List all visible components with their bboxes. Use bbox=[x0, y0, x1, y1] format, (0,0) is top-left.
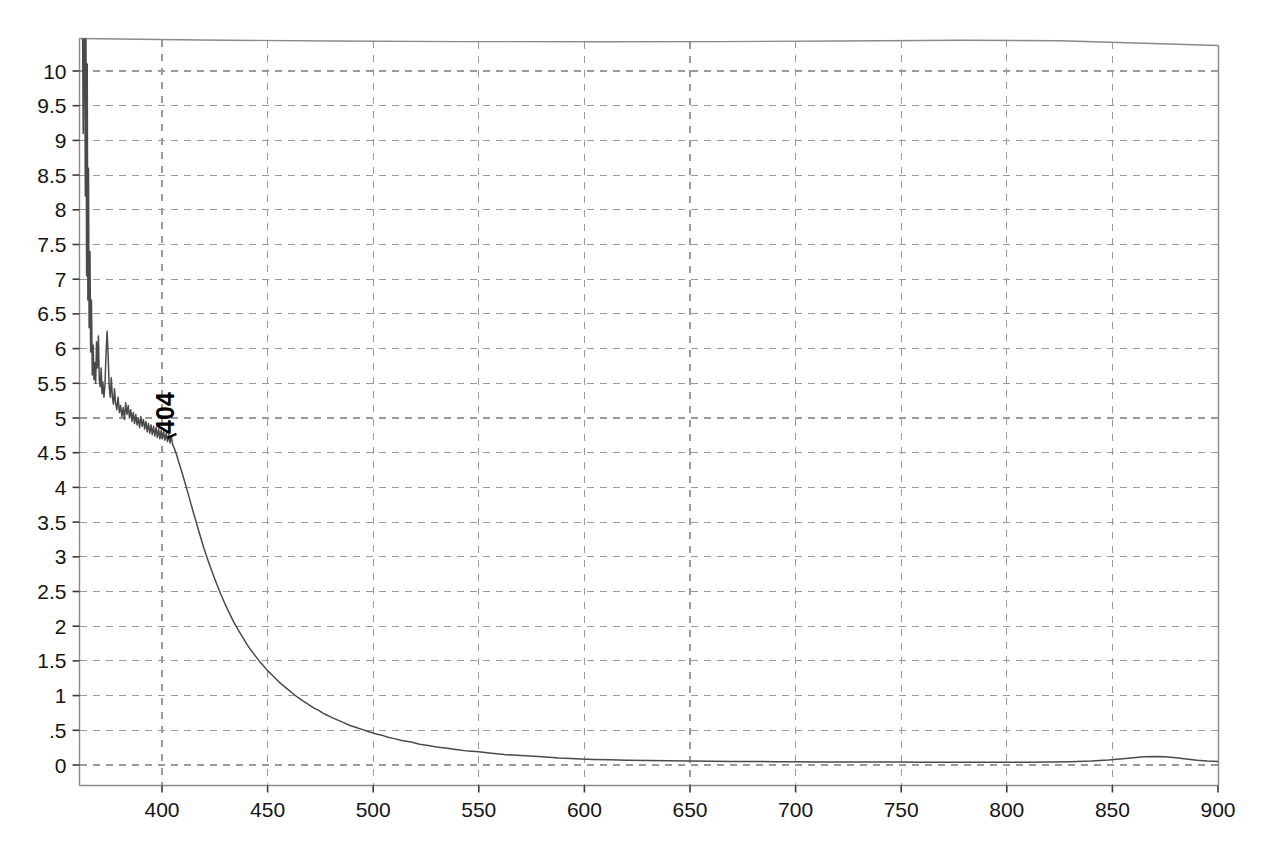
x-tick-label: 600 bbox=[567, 798, 602, 821]
y-tick-label: 9 bbox=[55, 129, 67, 152]
svg-text:404: 404 bbox=[151, 392, 179, 434]
x-tick-label: 450 bbox=[250, 798, 285, 821]
y-tick-label: 7 bbox=[55, 268, 67, 291]
y-tick-label: 6.5 bbox=[37, 302, 66, 325]
spectrum-plot: 0.511.522.533.544.555.566.577.588.599.51… bbox=[0, 0, 1277, 849]
spectrum-chart: 0.511.522.533.544.555.566.577.588.599.51… bbox=[0, 0, 1277, 849]
y-tick-label: 4 bbox=[55, 476, 67, 499]
y-tick-label: 8 bbox=[55, 198, 67, 221]
y-tick-label: 3 bbox=[55, 545, 67, 568]
x-tick-label: 850 bbox=[1095, 798, 1130, 821]
peak-label-404: 404 bbox=[151, 392, 179, 434]
x-tick-label: 550 bbox=[461, 798, 496, 821]
y-tick-label: 0 bbox=[55, 754, 67, 777]
x-tick-label: 500 bbox=[356, 798, 391, 821]
y-tick-label: 1.5 bbox=[37, 649, 66, 672]
y-tick-label: 2 bbox=[55, 615, 67, 638]
x-tick-label: 650 bbox=[672, 798, 707, 821]
y-tick-label: 1 bbox=[55, 684, 67, 707]
chart-background bbox=[0, 0, 1277, 849]
y-tick-label: 2.5 bbox=[37, 580, 66, 603]
x-tick-label: 750 bbox=[884, 798, 919, 821]
x-tick-label: 900 bbox=[1200, 798, 1235, 821]
y-tick-label: .5 bbox=[49, 719, 67, 742]
y-tick-label: 5 bbox=[55, 407, 67, 430]
y-tick-label: 5.5 bbox=[37, 372, 66, 395]
x-tick-label: 700 bbox=[778, 798, 813, 821]
peak-annotations: 404 bbox=[151, 392, 179, 438]
y-tick-label: 7.5 bbox=[37, 233, 66, 256]
y-tick-label: 4.5 bbox=[37, 441, 66, 464]
x-tick-label: 400 bbox=[144, 798, 179, 821]
y-tick-label: 10 bbox=[43, 60, 66, 83]
y-tick-label: 9.5 bbox=[37, 94, 66, 117]
y-tick-label: 3.5 bbox=[37, 511, 66, 534]
x-tick-label: 800 bbox=[989, 798, 1024, 821]
y-tick-label: 8.5 bbox=[37, 164, 66, 187]
y-tick-label: 6 bbox=[55, 337, 67, 360]
